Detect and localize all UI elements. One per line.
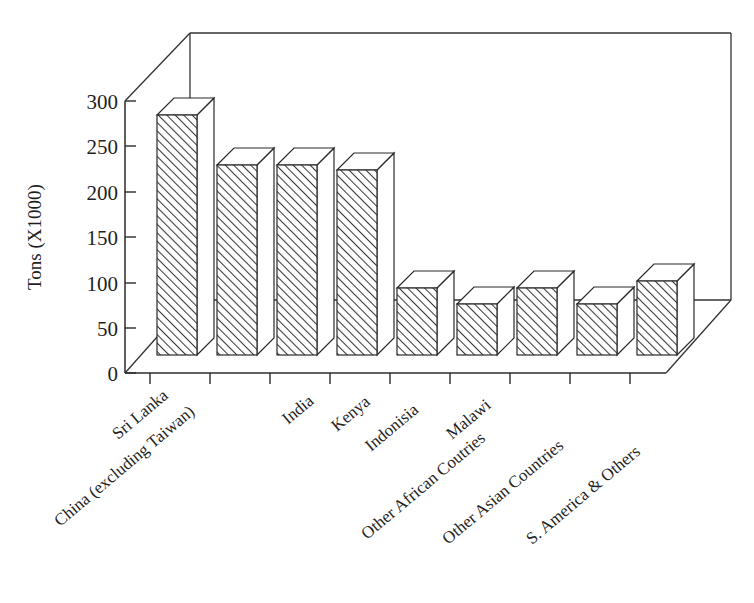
frame-top-left-diagonal [125, 33, 190, 101]
y-axis: 300 250 200 150 100 50 0 Tons (X1000) [24, 90, 136, 386]
bar-face-3 [337, 170, 377, 355]
bar-group-8 [637, 264, 694, 355]
bar-face-0 [157, 115, 197, 355]
bar-face-5 [457, 304, 497, 355]
y-tick-label-100: 100 [87, 272, 119, 296]
y-tick-label-250: 250 [87, 135, 119, 159]
x-tick-label-kenya: Kenya [327, 392, 374, 435]
bar-face-2 [277, 165, 317, 355]
bar-chart-figure: 300 250 200 150 100 50 0 Tons (X1000) [0, 0, 754, 603]
y-tick-label-200: 200 [87, 181, 119, 205]
bar-group-3 [337, 153, 394, 355]
bar-group-0 [157, 98, 214, 355]
bar-group-7 [577, 287, 634, 355]
bar-side-3 [377, 153, 394, 355]
x-axis [125, 373, 666, 384]
x-tick-labels: Sri Lanka China (excluding Taiwan) India… [50, 385, 643, 548]
y-tick-label-300: 300 [87, 90, 119, 114]
y-axis-title: Tons (X1000) [24, 184, 46, 290]
bar-side-2 [317, 148, 334, 355]
bar-group-1 [217, 148, 274, 355]
y-tick-label-50: 50 [97, 317, 118, 341]
y-tick-label-0: 0 [108, 362, 119, 386]
bar-face-8 [637, 281, 677, 355]
y-tick-label-150: 150 [87, 226, 119, 250]
chart-container: 300 250 200 150 100 50 0 Tons (X1000) [0, 0, 754, 603]
bar-group-4 [397, 271, 454, 355]
bar-side-0 [197, 98, 214, 355]
x-tick-label-india: India [278, 391, 317, 428]
bar-face-4 [397, 288, 437, 355]
bar-face-7 [577, 304, 617, 355]
bar-group-6 [517, 271, 574, 355]
bar-side-1 [257, 148, 274, 355]
bar-face-6 [517, 288, 557, 355]
bar-face-1 [217, 165, 257, 355]
bar-group-5 [457, 287, 514, 355]
bar-group-2 [277, 148, 334, 355]
